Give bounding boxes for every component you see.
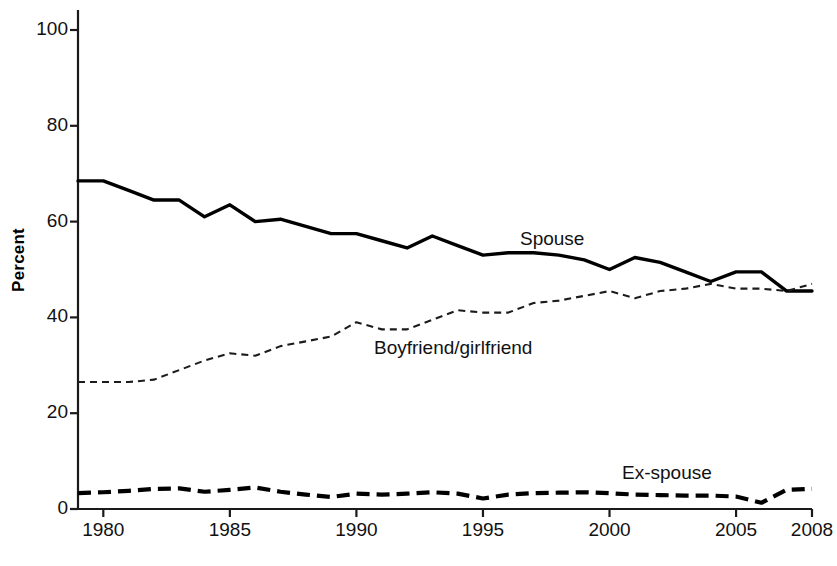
x-tick-marks — [103, 509, 812, 517]
series-label-boyfriend-girlfriend: Boyfriend/girlfriend — [374, 337, 532, 359]
x-tick-label: 1985 — [185, 519, 275, 541]
axes-group — [70, 10, 812, 517]
y-tick-label: 20 — [12, 401, 68, 423]
x-tick-label: 1995 — [438, 519, 528, 541]
y-axis-title-text: Percent — [9, 228, 29, 292]
series-line-spouse — [78, 181, 812, 291]
y-tick-label: 80 — [12, 114, 68, 136]
x-tick-label: 2008 — [767, 519, 837, 541]
x-tick-label: 1980 — [58, 519, 148, 541]
series-label-ex-spouse: Ex-spouse — [622, 462, 712, 484]
x-tick-label: 1990 — [311, 519, 401, 541]
series-label-spouse: Spouse — [520, 228, 584, 250]
y-tick-label: 40 — [12, 305, 68, 327]
y-tick-marks — [70, 30, 78, 509]
y-tick-label: 60 — [12, 210, 68, 232]
series-line-boyfriend-girlfriend — [78, 284, 812, 382]
y-tick-label: 0 — [12, 497, 68, 519]
x-tick-label: 2000 — [565, 519, 655, 541]
y-tick-label: 100 — [12, 18, 68, 40]
series-line-ex-spouse — [78, 487, 812, 502]
